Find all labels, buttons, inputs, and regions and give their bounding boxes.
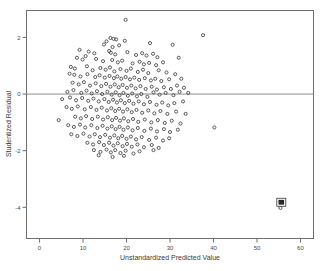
- data-point: [98, 74, 101, 77]
- case-label-text: 58: [279, 200, 285, 205]
- data-point: [128, 78, 131, 81]
- data-point: [68, 72, 71, 75]
- data-point: [113, 83, 116, 86]
- data-point: [119, 151, 122, 154]
- data-point: [131, 129, 134, 132]
- data-point: [141, 68, 144, 71]
- y-axis-ticks: [23, 37, 27, 207]
- data-point: [106, 127, 109, 130]
- data-point: [115, 116, 118, 119]
- data-point: [139, 85, 142, 88]
- data-point: [135, 53, 138, 56]
- data-point: [157, 146, 160, 149]
- outlier-case-label: 58: [277, 198, 286, 206]
- data-point: [57, 119, 60, 122]
- data-point: [101, 60, 104, 63]
- data-point: [90, 92, 93, 95]
- data-point: [135, 138, 138, 141]
- data-point: [135, 108, 138, 111]
- data-point: [105, 109, 108, 112]
- data-point: [156, 56, 159, 59]
- data-point: [138, 60, 141, 63]
- data-point: [167, 104, 170, 107]
- data-point: [160, 79, 163, 82]
- data-point: [141, 52, 144, 55]
- data-point: [120, 77, 123, 80]
- data-point: [157, 69, 160, 72]
- data-point: [168, 137, 171, 140]
- data-point: [158, 93, 161, 96]
- data-point: [130, 145, 133, 148]
- data-point: [175, 110, 178, 113]
- data-point: [114, 91, 117, 94]
- data-point: [150, 121, 153, 124]
- data-point: [99, 150, 102, 153]
- data-point: [95, 108, 98, 111]
- data-point: [125, 142, 128, 145]
- data-point: [182, 86, 185, 89]
- data-point: [126, 126, 129, 129]
- data-point: [119, 68, 122, 71]
- data-point: [86, 141, 89, 144]
- data-point: [117, 137, 120, 140]
- data-point: [130, 111, 133, 114]
- y-axis-tick-labels: 20-2-4: [15, 35, 21, 211]
- data-point: [95, 90, 98, 93]
- data-point: [108, 74, 111, 77]
- data-point: [133, 76, 136, 79]
- data-point: [85, 115, 88, 118]
- data-point: [112, 77, 115, 80]
- data-point: [142, 63, 145, 66]
- data-point: [156, 119, 159, 122]
- data-point: [101, 124, 104, 127]
- data-point: [169, 87, 172, 90]
- data-point: [118, 107, 121, 110]
- data-point: [91, 143, 94, 146]
- data-point: [132, 152, 135, 155]
- data-point: [108, 136, 111, 139]
- data-point: [151, 52, 154, 55]
- data-point: [118, 125, 121, 128]
- data-point: [168, 78, 171, 81]
- data-point: [184, 112, 187, 115]
- data-point: [147, 109, 150, 112]
- data-point: [72, 125, 75, 128]
- data-point: [88, 135, 91, 138]
- data-point: [103, 98, 106, 101]
- data-point: [140, 136, 143, 139]
- data-point: [128, 99, 131, 102]
- data-point: [114, 149, 117, 152]
- data-point: [79, 117, 82, 120]
- data-point: [86, 73, 89, 76]
- data-point: [79, 75, 82, 78]
- data-point: [143, 129, 146, 132]
- data-point: [149, 127, 152, 130]
- data-point: [70, 133, 73, 136]
- data-point: [124, 18, 127, 21]
- data-point: [115, 101, 118, 104]
- data-point: [89, 106, 92, 109]
- data-point: [202, 34, 205, 37]
- data-point: [146, 95, 149, 98]
- data-point: [147, 72, 150, 75]
- data-point: [131, 117, 134, 120]
- x-axis-ticks: [40, 239, 301, 243]
- data-point: [68, 96, 71, 99]
- data-point: [132, 102, 135, 105]
- data-point: [81, 96, 84, 99]
- data-point: [84, 126, 87, 129]
- data-point: [76, 134, 79, 137]
- data-point: [106, 116, 109, 119]
- data-point: [84, 55, 87, 58]
- data-point: [108, 66, 111, 69]
- scatter-plot-figure: 0102030405060 20-2-4 58 Unstandardized P…: [0, 0, 326, 271]
- data-point: [213, 126, 216, 129]
- data-point: [109, 85, 112, 88]
- x-tick-label: 40: [210, 245, 217, 251]
- data-point: [85, 65, 88, 68]
- data-point: [98, 141, 101, 144]
- data-point: [75, 99, 78, 102]
- data-point: [109, 151, 112, 154]
- data-point: [155, 130, 158, 133]
- y-tick-label: 0: [17, 91, 21, 97]
